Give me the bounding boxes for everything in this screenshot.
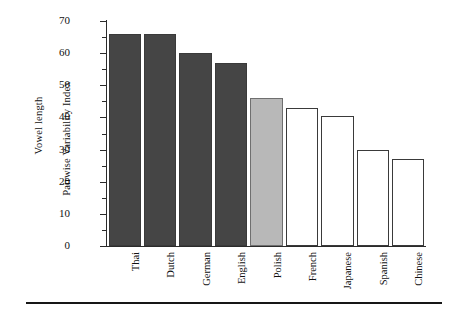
bar-chinese	[392, 159, 424, 246]
y-tick-major-60	[100, 53, 106, 54]
y-tick-minor-45	[102, 101, 106, 102]
bar-german	[179, 53, 211, 246]
y-tick-label-10: 10	[40, 208, 70, 219]
y-tick-major-50	[100, 85, 106, 86]
y-tick-major-0	[100, 246, 106, 247]
footer-rule	[26, 302, 442, 304]
x-axis-label-german: German	[201, 252, 212, 286]
y-tick-label-0: 0	[40, 240, 70, 251]
y-tick-major-20	[100, 182, 106, 183]
y-tick-major-70	[100, 21, 106, 22]
y-tick-label-40: 40	[40, 111, 70, 122]
x-axis-label-japanese: Japanese	[342, 252, 353, 289]
x-axis-label-french: French	[307, 252, 318, 281]
x-axis-label-chinese: Chinese	[413, 252, 424, 286]
x-axis-label-english: English	[236, 252, 247, 284]
figure: Vowel length Pairwise Variability Index …	[0, 0, 468, 317]
y-tick-label-60: 60	[40, 47, 70, 58]
y-axis-line	[106, 20, 107, 247]
y-tick-label-30: 30	[40, 144, 70, 155]
y-tick-minor-55	[102, 69, 106, 70]
y-tick-minor-5	[102, 230, 106, 231]
y-tick-minor-65	[102, 37, 106, 38]
y-tick-label-20: 20	[40, 176, 70, 187]
bar-french	[286, 108, 318, 246]
x-axis-label-spanish: Spanish	[378, 252, 389, 285]
bar-polish	[250, 98, 282, 246]
y-tick-minor-25	[102, 166, 106, 167]
y-tick-minor-35	[102, 134, 106, 135]
x-axis-label-dutch: Dutch	[165, 252, 176, 278]
bar-english	[215, 63, 247, 246]
y-tick-label-70: 70	[40, 15, 70, 26]
bar-dutch	[144, 34, 176, 246]
y-tick-major-10	[100, 214, 106, 215]
y-tick-major-40	[100, 117, 106, 118]
bar-thai	[109, 34, 141, 246]
y-tick-minor-15	[102, 198, 106, 199]
bar-japanese	[321, 116, 353, 246]
y-tick-label-50: 50	[40, 79, 70, 90]
x-axis-line	[106, 246, 426, 247]
x-axis-label-polish: Polish	[272, 252, 283, 278]
bar-spanish	[357, 150, 389, 246]
y-tick-major-30	[100, 150, 106, 151]
x-axis-label-thai: Thai	[130, 252, 141, 271]
